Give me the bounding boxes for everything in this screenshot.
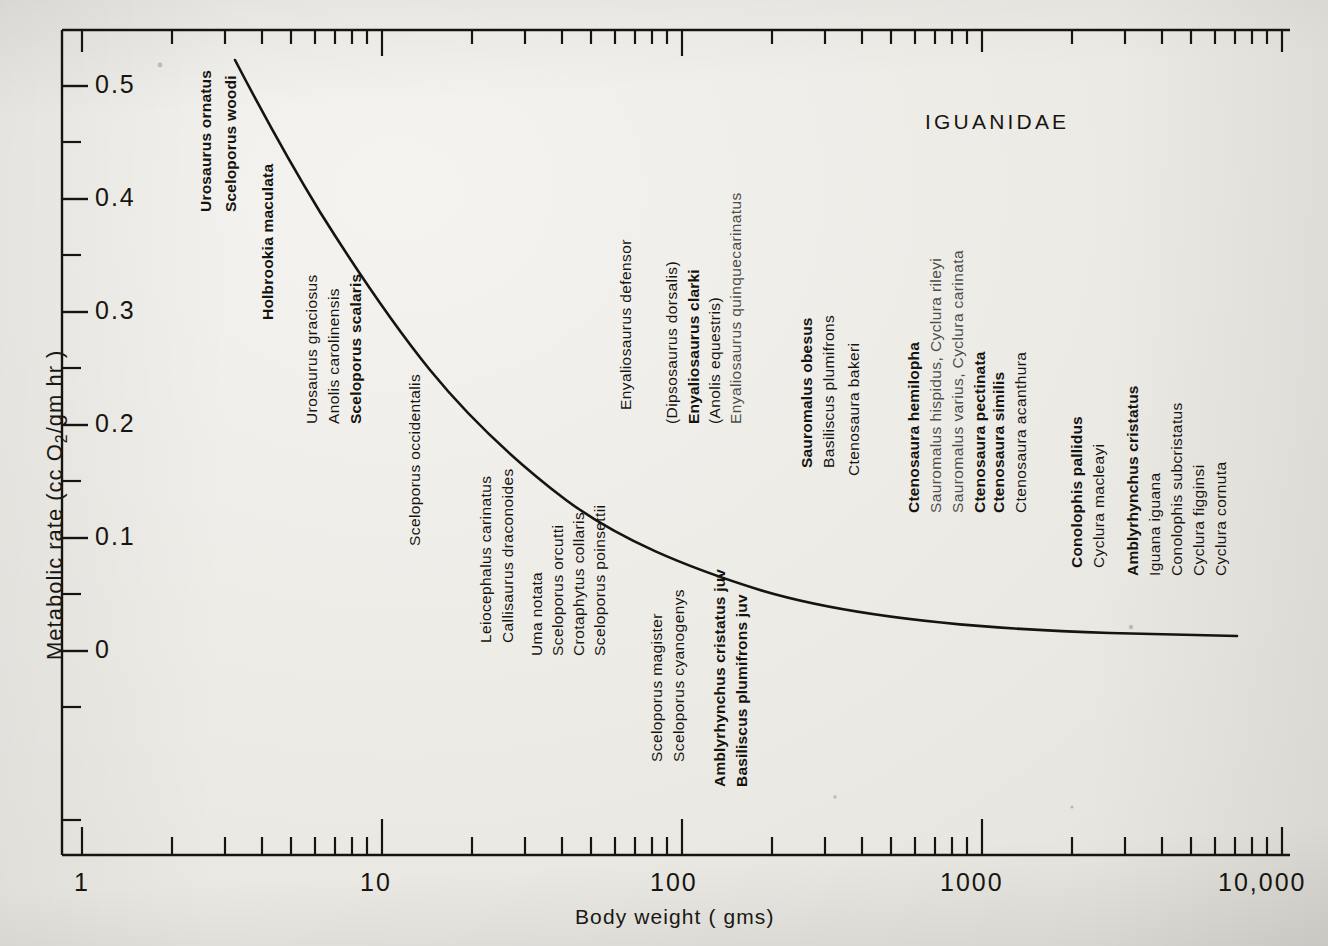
species-label: Sauromalus varius, Cyclura carinata	[949, 250, 967, 513]
species-label: Ctenosaura bakeri	[845, 343, 863, 476]
species-label: Conolophis pallidus	[1068, 416, 1086, 568]
y-axis-title-subscript: 2	[53, 433, 70, 443]
species-label: Cyclura figginsi	[1190, 465, 1208, 577]
species-label: Enyaliosaurus clarki	[685, 269, 703, 424]
species-label: Anolis carolinensis	[325, 288, 343, 424]
species-label: Ctenosaura similis	[990, 372, 1008, 513]
species-label: Holbrookia maculata	[259, 164, 277, 320]
species-label: Sauromalus hispidus, Cyclura rileyi	[927, 258, 945, 513]
species-label: Urosaurus graciosus	[303, 274, 321, 424]
x-tick-label-100: 100	[650, 868, 698, 897]
family-title: IGUANIDAE	[925, 110, 1069, 134]
species-label: Ctenosaura acanthura	[1012, 352, 1030, 513]
species-label: Conolophis subcristatus	[1168, 402, 1186, 576]
species-label: (Anolis equestris)	[706, 297, 724, 424]
species-label: Sceloporus cyanogenys	[670, 589, 688, 762]
species-label: Ctenosaura hemilopha	[905, 342, 923, 513]
y-axis-title-prefix: Metabolic rate (cc O	[42, 443, 67, 660]
species-label: Basiliscus plumifrons	[820, 315, 838, 468]
species-label: Crotaphytus collaris	[570, 512, 588, 656]
species-label: (Dipsosaurus dorsalis)	[663, 261, 681, 424]
species-label: Callisaurus draconoides	[499, 468, 517, 643]
x-tick-label-1000: 1000	[940, 868, 1004, 897]
species-label: Cyclura macleayi	[1090, 444, 1108, 568]
x-tick-label-10000: 10,000	[1218, 868, 1306, 897]
species-label: Enyaliosaurus defensor	[617, 239, 635, 410]
species-label: Sceloporus scalaris	[347, 274, 365, 424]
species-label: Ctenosaura pectinata	[971, 351, 989, 513]
y-tick-label-0-2: 0.2	[95, 409, 136, 438]
species-label: Iguana iguana	[1146, 473, 1164, 576]
y-tick-label-0-5: 0.5	[95, 70, 136, 99]
species-label: Uma notata	[528, 572, 546, 656]
species-label: Sceloporus orcutti	[549, 525, 567, 656]
species-label: Sceloporus poinsettii	[591, 505, 609, 656]
species-label: Sceloporus magister	[648, 613, 666, 762]
x-axis-bottom-ticks	[82, 819, 1282, 855]
x-tick-label-1: 1	[74, 868, 90, 897]
species-label: Leiocephalus carinatus	[477, 476, 495, 643]
species-label: Sceloporus occidentalis	[406, 374, 424, 546]
species-label: Cyclura cornuta	[1212, 461, 1230, 576]
x-tick-label-10: 10	[360, 868, 392, 897]
y-tick-label-0-1: 0.1	[95, 522, 136, 551]
species-label: Sauromalus obesus	[798, 317, 816, 468]
x-axis-top-ticks	[82, 30, 1282, 56]
species-label: Amblyrhynchus cristatus	[1124, 385, 1142, 576]
x-axis-title: Body weight ( gms)	[575, 905, 775, 929]
y-axis-title-suffix: /gm hr )	[42, 350, 67, 434]
species-label: Sceloporus woodi	[222, 75, 240, 212]
y-tick-label-0-4: 0.4	[95, 183, 136, 212]
species-label: Basiliscus plumifrons juv	[733, 594, 751, 787]
y-tick-label-0: 0	[95, 635, 111, 664]
y-axis-title: Metabolic rate (cc O2/gm hr )	[42, 350, 71, 660]
y-tick-label-0-3: 0.3	[95, 296, 136, 325]
species-label: Enyaliosaurus quinquecarinatus	[727, 192, 745, 424]
species-label: Urosaurus ornatus	[197, 70, 215, 212]
species-label: Amblyrhynchus cristatus juv	[711, 569, 729, 787]
